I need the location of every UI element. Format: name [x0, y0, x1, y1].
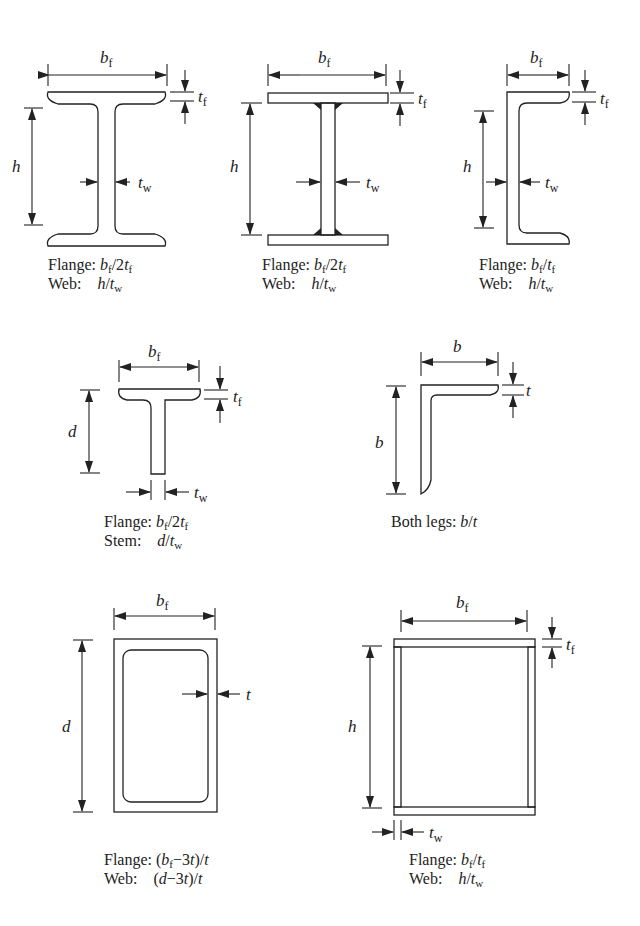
svg-text:bf: bf [148, 342, 161, 364]
angle: b t b [375, 337, 532, 494]
svg-text:bf: bf [530, 48, 543, 70]
caption-rolled-w: Flange: bf/2tf Web: h/tw [48, 255, 132, 293]
svg-text:tf: tf [233, 387, 242, 409]
svg-text:h: h [463, 157, 472, 176]
tw-label: tw [138, 173, 152, 195]
welded-i-shape: bf tf h tw [230, 48, 427, 245]
caption-channel: Flange: bf/tf Web: h/tw [479, 255, 555, 293]
svg-text:tf: tf [418, 89, 427, 111]
caption-welded-i: Flange: bf/2tf Web: h/tw [262, 255, 346, 293]
svg-text:t: t [526, 381, 532, 400]
rectangular-hss: bf d t [62, 591, 252, 812]
svg-text:tf: tf [566, 635, 575, 657]
svg-text:t: t [246, 685, 252, 704]
tee: bf tf d tw [68, 342, 242, 505]
svg-text:b: b [453, 337, 462, 356]
sections-diagram: bf tf h tw bf tf [0, 0, 640, 926]
svg-text:bf: bf [318, 48, 331, 70]
svg-text:d: d [62, 717, 71, 736]
svg-text:b: b [375, 433, 384, 452]
svg-text:bf: bf [456, 593, 469, 615]
svg-text:d: d [68, 422, 77, 441]
caption-tee: Flange: bf/2tf Stem: d/tw [104, 512, 188, 550]
svg-text:tw: tw [366, 173, 380, 195]
caption-rectangular-hss: Flange: (bf−3t)/t Web: (d−3t)/t [104, 850, 209, 888]
tf-label: tf [198, 87, 207, 109]
svg-text:tf: tf [600, 89, 609, 111]
bf-label: bf [100, 48, 113, 70]
rolled-w-shape: bf tf h tw [12, 48, 207, 246]
svg-text:h: h [348, 717, 357, 736]
svg-text:tw: tw [194, 483, 208, 505]
svg-text:bf: bf [156, 591, 169, 613]
h-label: h [12, 157, 21, 176]
svg-text:tw: tw [429, 823, 443, 845]
caption-box-section: Flange: bf/tf Web: h/tw [409, 850, 485, 888]
svg-text:h: h [230, 157, 239, 176]
channel: bf tf h tw [463, 48, 609, 244]
caption-angle: Both legs: b/t [391, 512, 477, 531]
box-section: bf tf h tw [348, 593, 575, 845]
svg-text:tw: tw [545, 173, 559, 195]
